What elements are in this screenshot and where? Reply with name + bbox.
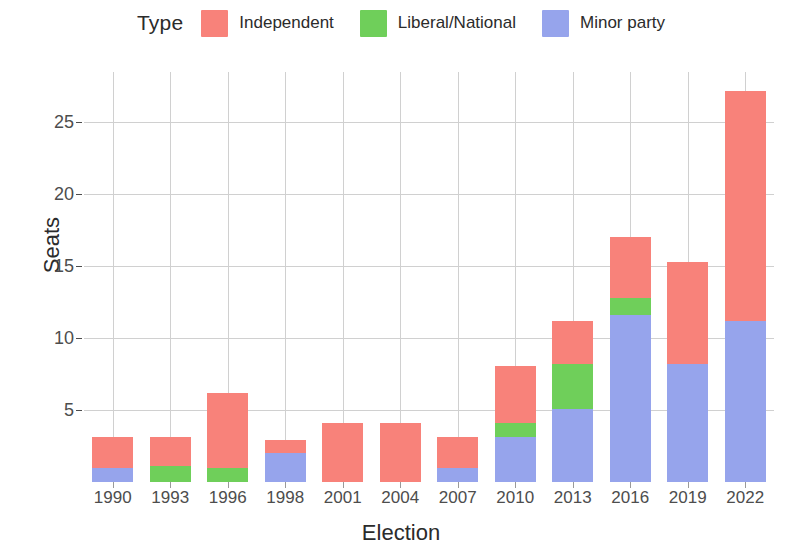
legend-key-independent [201,10,228,37]
y-axis-tick-mark [76,122,82,123]
x-axis-tick-labels: 1990199319961998200120042007201020132016… [84,488,774,514]
bar-segment[interactable] [667,262,708,364]
bar-segment[interactable] [207,468,248,482]
legend-label-minor-party: Minor party [580,13,665,33]
x-axis-tick-label: 1993 [151,488,189,508]
x-axis-tick-label: 1998 [266,488,304,508]
legend-title: Type [137,11,183,35]
bar-segment[interactable] [437,468,478,482]
legend-item-independent[interactable]: Independent [201,10,334,37]
x-axis-tick-label: 2022 [726,488,764,508]
bar-group-2016[interactable] [610,237,651,482]
x-axis-tick-mark [113,482,114,488]
bar-segment[interactable] [265,453,306,482]
x-axis-tick-label: 2013 [554,488,592,508]
y-axis-tick-label: 10 [54,328,74,349]
legend-key-liberal-national [360,10,387,37]
bar-segment[interactable] [495,366,536,424]
bar-segment[interactable] [150,437,191,466]
x-axis-tick-label: 2007 [439,488,477,508]
bar-segment[interactable] [92,437,133,467]
y-axis-tick-mark [76,410,82,411]
x-axis-tick-mark [630,482,631,488]
bar-segment[interactable] [610,298,651,315]
bar-group-1990[interactable] [92,437,133,482]
bar-group-2013[interactable] [552,321,593,482]
x-axis-tick-label: 1990 [94,488,132,508]
bar-segment[interactable] [552,364,593,409]
x-axis-tick-mark [343,482,344,488]
bar-segment[interactable] [207,393,248,468]
legend-item-liberal-national[interactable]: Liberal/National [360,10,516,37]
x-axis-tick-label: 2004 [381,488,419,508]
legend-label-liberal-national: Liberal/National [398,13,516,33]
x-axis-tick-label: 2019 [669,488,707,508]
bar-group-2019[interactable] [667,262,708,482]
bar-segment[interactable] [552,409,593,482]
bar-segment[interactable] [667,364,708,482]
plot-panel [84,72,774,482]
stacked-bar-chart: Type Independent Liberal/National Minor … [0,0,802,554]
x-axis-tick-label: 2001 [324,488,362,508]
bar-group-1996[interactable] [207,393,248,482]
bar-segment[interactable] [495,423,536,437]
bar-group-2022[interactable] [725,91,766,482]
bar-segment[interactable] [610,237,651,297]
x-axis-tick-label: 1996 [209,488,247,508]
x-axis-tick-mark [285,482,286,488]
bar-segment[interactable] [552,321,593,364]
bar-segment[interactable] [725,91,766,321]
bar-group-2004[interactable] [380,423,421,482]
y-axis-tick-mark [76,338,82,339]
legend-key-minor-party [542,10,569,37]
y-axis-tick-label: 15 [54,256,74,277]
x-axis-tick-mark [745,482,746,488]
x-axis-tick-mark [228,482,229,488]
x-axis-tick-mark [515,482,516,488]
bar-segment[interactable] [437,437,478,467]
legend-label-independent: Independent [239,13,334,33]
bar-group-2010[interactable] [495,366,536,483]
x-axis-tick-mark [400,482,401,488]
y-axis-tick-mark [76,266,82,267]
bar-segment[interactable] [610,315,651,482]
bar-group-1998[interactable] [265,440,306,482]
bar-segment[interactable] [495,437,536,482]
y-axis-tick-labels: 510152025 [0,72,74,482]
legend-item-minor-party[interactable]: Minor party [542,10,665,37]
bar-segment[interactable] [322,423,363,482]
bar-segment[interactable] [725,321,766,482]
x-axis-tick-label: 2016 [611,488,649,508]
x-axis-title: Election [0,520,802,546]
x-axis-tick-mark [458,482,459,488]
y-axis-tick-mark [76,194,82,195]
bar-group-1993[interactable] [150,437,191,482]
y-axis-tick-label: 5 [64,400,74,421]
bar-series-container [84,72,774,482]
x-axis-tick-mark [170,482,171,488]
bar-segment[interactable] [380,423,421,482]
y-axis-tick-label: 25 [54,112,74,133]
chart-legend: Type Independent Liberal/National Minor … [0,0,802,46]
bar-group-2007[interactable] [437,437,478,482]
bar-segment[interactable] [265,440,306,453]
bar-group-2001[interactable] [322,423,363,482]
x-axis-tick-mark [688,482,689,488]
x-axis-tick-label: 2010 [496,488,534,508]
y-axis-tick-label: 20 [54,184,74,205]
bar-segment[interactable] [150,466,191,482]
bar-segment[interactable] [92,468,133,482]
x-axis-tick-mark [573,482,574,488]
